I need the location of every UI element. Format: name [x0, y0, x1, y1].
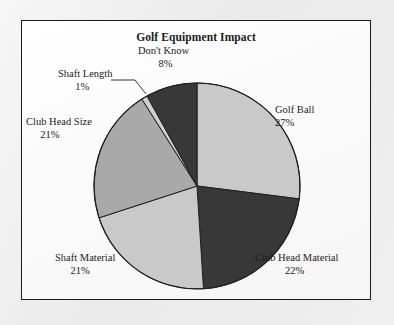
slice-label-club-head-size-name: Club Head Size	[26, 116, 92, 129]
slice-label-golf-ball-name: Golf Ball	[275, 104, 316, 117]
slice-label-club-head-material: Club Head Material 22%	[255, 252, 338, 277]
slice-label-shaft-length-percent: 1%	[58, 81, 113, 94]
shaft-length-leader-line	[111, 80, 146, 94]
slice-label-club-head-material-name: Club Head Material	[255, 252, 338, 265]
slice-label-club-head-material-percent: 22%	[255, 265, 338, 278]
slice-label-golf-ball: Golf Ball 27%	[275, 104, 316, 129]
slice-label-shaft-material: Shaft Material 21%	[55, 252, 115, 277]
slice-label-shaft-length: Shaft Length 1%	[58, 68, 113, 93]
slice-label-shaft-material-percent: 21%	[55, 265, 115, 278]
slice-label-shaft-length-name: Shaft Length	[58, 68, 113, 81]
chart-frame: Golf Equipment Impact	[21, 20, 371, 300]
slice-label-club-head-size-percent: 21%	[26, 129, 92, 142]
slice-label-dont-know: Don't Know 8%	[138, 45, 189, 70]
slice-label-golf-ball-percent: 27%	[275, 117, 316, 130]
slice-label-dont-know-name: Don't Know	[138, 45, 189, 58]
pie-slice-golf-ball[interactable]	[197, 83, 300, 199]
slice-label-shaft-material-name: Shaft Material	[55, 252, 115, 265]
page-background: Golf Equipment Impact	[0, 0, 394, 325]
chart-canvas: Golf Equipment Impact	[22, 21, 370, 299]
slice-label-dont-know-percent: 8%	[138, 58, 189, 71]
slice-label-club-head-size: Club Head Size 21%	[26, 116, 92, 141]
